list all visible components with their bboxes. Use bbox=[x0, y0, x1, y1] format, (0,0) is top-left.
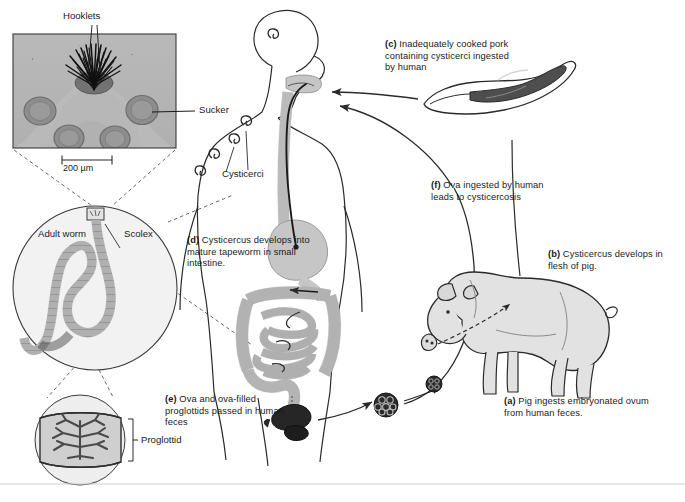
hooklets-label: Hooklets bbox=[63, 10, 100, 22]
caption-b: (b) Cysticercus develops in flesh of pig… bbox=[548, 238, 678, 272]
caption-e-tag: (e) bbox=[165, 394, 179, 404]
caption-d-text: Cysticercus develops into mature tapewor… bbox=[187, 235, 310, 268]
proglottid-label: Proglottid bbox=[141, 434, 182, 446]
pig-figure bbox=[421, 272, 617, 398]
figure-canvas: Hooklets Sucker 200 µm Adult worm Scolex… bbox=[0, 0, 685, 502]
caption-a: (a) Pig ingests embryonated ovum from hu… bbox=[504, 385, 654, 419]
ovum-sphere-near-pig bbox=[426, 376, 442, 392]
caption-d: (d) Cysticercus develops into mature tap… bbox=[187, 224, 311, 269]
proglottid-inset bbox=[35, 395, 138, 485]
ovum-sphere-center bbox=[374, 393, 398, 417]
caption-c-text: Inadequately cooked pork containing cyst… bbox=[385, 39, 509, 72]
caption-e: (e) Ova and ova-filled proglottids passe… bbox=[165, 383, 287, 428]
caption-c: (c) Inadequately cooked pork containing … bbox=[385, 28, 517, 73]
hooklets-leader bbox=[88, 25, 100, 72]
scale-bar-label: 200 µm bbox=[63, 163, 93, 174]
sucker-leader bbox=[152, 111, 195, 112]
caption-c-tag: (c) bbox=[385, 39, 399, 49]
caption-e-text: Ova and ova-filled proglottids passed in… bbox=[165, 394, 284, 427]
arrow-pig-to-pork bbox=[512, 140, 520, 276]
cysticerci-label: Cysticerci bbox=[222, 168, 264, 180]
magnification-cone-upper bbox=[168, 195, 233, 222]
scolex-label: Scolex bbox=[124, 228, 153, 240]
caption-a-tag: (a) bbox=[504, 396, 518, 406]
caption-f-tag: (f) bbox=[431, 180, 443, 190]
sucker-label: Sucker bbox=[199, 104, 229, 116]
caption-f: (f) Ova ingested by human leads to cysti… bbox=[431, 169, 547, 203]
caption-b-text: Cysticercus develops in flesh of pig. bbox=[548, 249, 663, 270]
adult-worm-label: Adult worm bbox=[38, 228, 86, 240]
arrow-pork-to-mouth bbox=[332, 92, 418, 99]
caption-f-text: Ova ingested by human leads to cysticerc… bbox=[431, 180, 544, 201]
caption-a-text: Pig ingests embryonated ovum from human … bbox=[504, 396, 649, 417]
caption-d-tag: (d) bbox=[187, 235, 202, 245]
micrograph-border bbox=[13, 34, 176, 148]
caption-b-tag: (b) bbox=[548, 249, 563, 259]
magnification-cone-scolex bbox=[14, 150, 175, 208]
